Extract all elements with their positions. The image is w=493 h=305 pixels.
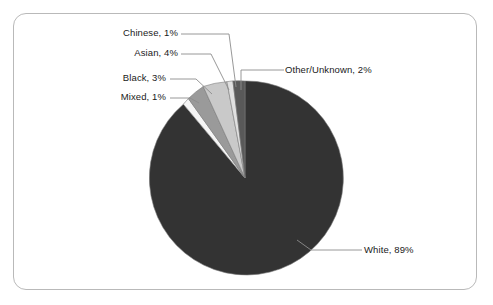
slice-label-white: White, 89% [364,244,414,255]
slice-label-other-unknown: Other/Unknown, 2% [285,64,372,75]
pie-chart-graphic [0,0,493,305]
slice-label-asian: Asian, 4% [0,47,178,58]
pie-slice-white[interactable] [149,81,343,275]
slice-label-chinese: Chinese, 1% [0,27,178,38]
pie-chart-screenshot: Chinese, 1% Asian, 4% Black, 3% Mixed, 1… [0,0,493,305]
slice-label-black: Black, 3% [0,72,166,83]
slice-label-mixed: Mixed, 1% [0,91,166,102]
